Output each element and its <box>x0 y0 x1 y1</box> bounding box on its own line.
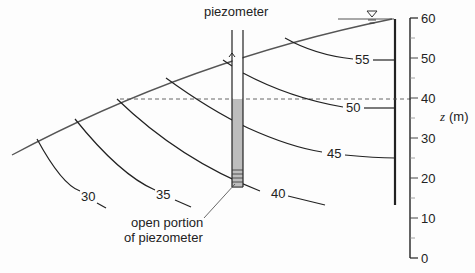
z-axis-variable: z <box>439 109 445 124</box>
equipotential-55 <box>285 38 353 59</box>
equipotential-35 <box>75 119 155 190</box>
equipotential-45-tail <box>345 155 395 158</box>
z-tick-60: 60 <box>421 11 435 26</box>
equipotential-label-45: 45 <box>327 146 341 161</box>
piezometer-water-column <box>232 99 243 186</box>
z-axis-unit: (m) <box>449 109 469 124</box>
equipotential-30-tail <box>97 203 106 208</box>
equipotential-label-35: 35 <box>156 187 170 202</box>
z-tick-0: 0 <box>421 251 428 266</box>
equipotential-30 <box>37 139 80 191</box>
equipotential-label-50: 50 <box>346 100 360 115</box>
equipotential-35-tail <box>175 200 191 207</box>
open-portion-label-1: open portion <box>131 215 203 230</box>
piezometer-label: piezometer <box>204 4 269 19</box>
piezometer <box>229 30 243 187</box>
z-tick-30: 30 <box>421 131 435 146</box>
equipotential-40-tail <box>288 196 325 205</box>
equipotential-label-30: 30 <box>81 189 95 204</box>
flow-net-diagram: 30 35 40 45 50 55 piezometer open portio… <box>0 0 475 273</box>
equipotential-45 <box>166 78 322 152</box>
z-tick-20: 20 <box>421 171 435 186</box>
equipotential-label-40: 40 <box>271 186 285 201</box>
water-table-icon <box>367 11 377 23</box>
equipotential-label-55: 55 <box>355 52 369 67</box>
open-portion-leader <box>204 184 235 218</box>
z-tick-50: 50 <box>421 51 435 66</box>
z-tick-10: 10 <box>421 211 435 226</box>
z-axis <box>410 18 418 258</box>
open-portion-label-2: of piezometer <box>124 230 203 245</box>
z-tick-40: 40 <box>421 91 435 106</box>
piezometer-interior-top <box>233 30 243 99</box>
ground-surface <box>12 19 392 155</box>
